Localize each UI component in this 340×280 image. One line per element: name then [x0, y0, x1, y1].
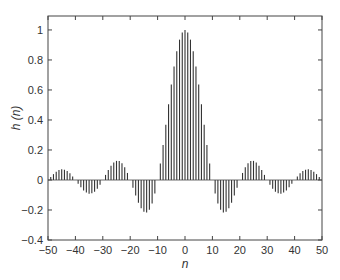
y-tick-label: −0.2: [21, 204, 43, 216]
y-axis-label: h (n): [9, 106, 23, 131]
x-tick-label: 10: [206, 244, 218, 256]
x-tick-label: −30: [93, 244, 112, 256]
y-tick-label: 1: [37, 24, 43, 36]
y-tick-label: 0.6: [28, 84, 43, 96]
y-tick-label: 0.8: [28, 54, 43, 66]
y-tick-label: 0.2: [28, 144, 43, 156]
x-tick-label: 0: [182, 244, 188, 256]
x-tick-label: −10: [148, 244, 167, 256]
x-tick-label: 20: [234, 244, 246, 256]
x-tick-label: 40: [288, 244, 300, 256]
y-tick-label: 0: [37, 174, 43, 186]
x-tick-label: −40: [66, 244, 85, 256]
x-tick-label: 50: [316, 244, 328, 256]
x-tick-label: 30: [261, 244, 273, 256]
y-tick-label: −0.4: [21, 234, 43, 246]
y-tick-label: 0.4: [28, 114, 43, 126]
stem-chart: −50−40−30−20−1001020304050 −0.4−0.200.20…: [0, 0, 340, 280]
x-tick-label: −20: [121, 244, 140, 256]
x-axis-label: n: [182, 257, 189, 271]
stem-series: [51, 30, 320, 212]
x-axis-ticks: −50−40−30−20−1001020304050: [39, 16, 328, 256]
